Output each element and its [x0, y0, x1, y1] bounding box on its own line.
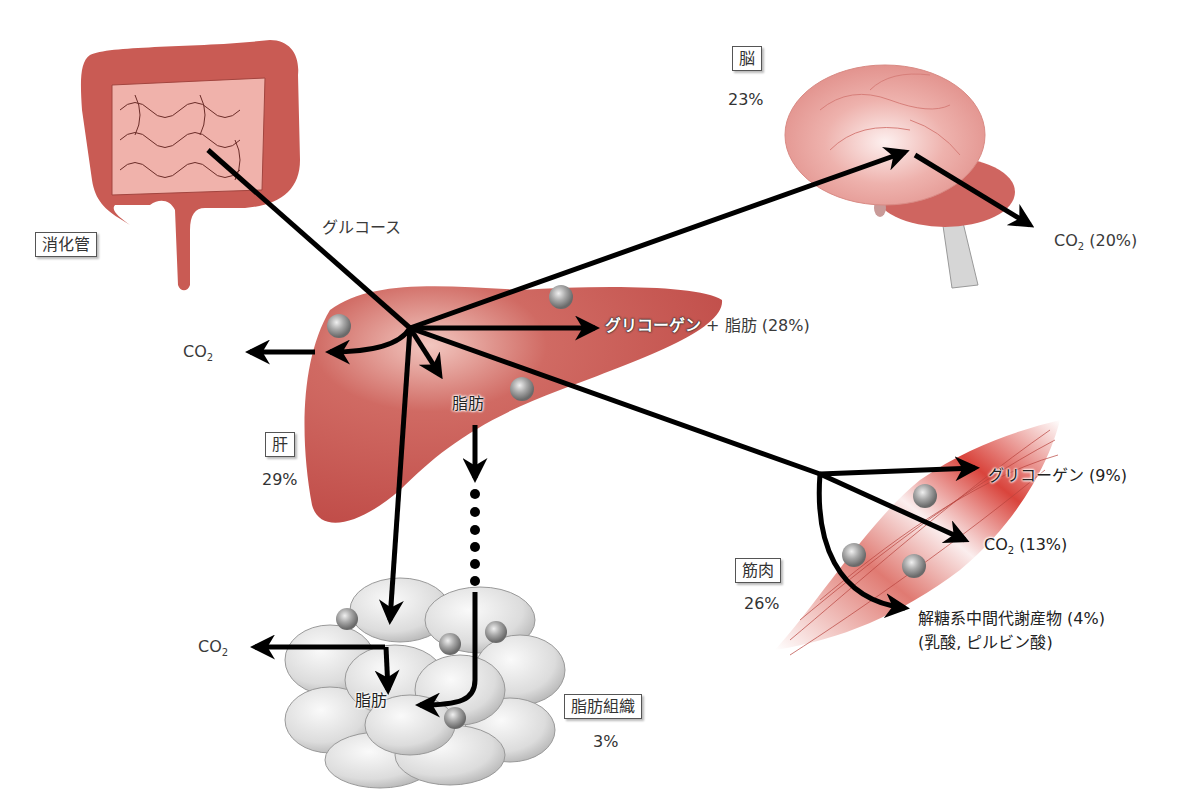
- brain-co2-output: CO2 (20%): [1054, 232, 1137, 253]
- muscle-glycogen-output: グリコーゲン (9%): [988, 467, 1127, 485]
- muscle-glycolysis-examples: (乳酸, ピルビン酸): [918, 634, 1053, 652]
- glucose-flow-label: グルコース: [322, 219, 401, 237]
- brain-illustration: [785, 65, 1015, 288]
- adipose-percent: 3%: [593, 732, 618, 751]
- muscle-label: 筋肉: [735, 558, 781, 583]
- adipose-fat-output: 脂肪: [355, 692, 387, 710]
- adipose-co2-output: CO2: [198, 638, 228, 659]
- adipose-label: 脂肪組織: [564, 694, 642, 719]
- dotted-fat-transport: [470, 489, 480, 586]
- liver-glycogen-fat-output: グリコーゲン + 脂肪 (28%): [605, 317, 810, 335]
- intestine-label: 消化管: [35, 232, 97, 257]
- muscle-co2-output: CO2 (13%): [984, 536, 1067, 557]
- diagram-artwork: [0, 0, 1196, 803]
- muscle-glycolysis-output: 解糖系中間代謝産物 (4%): [918, 610, 1105, 628]
- muscle-percent: 26%: [744, 594, 780, 613]
- liver-percent: 29%: [262, 470, 298, 489]
- brain-label: 脳: [732, 46, 762, 71]
- brain-percent: 23%: [728, 90, 764, 109]
- liver-label: 肝: [265, 432, 295, 457]
- liver-co2-output: CO2: [183, 343, 213, 364]
- liver-fat-output: 脂肪: [452, 395, 484, 413]
- intestine-illustration: [81, 40, 300, 290]
- adipose-illustration: [285, 578, 565, 788]
